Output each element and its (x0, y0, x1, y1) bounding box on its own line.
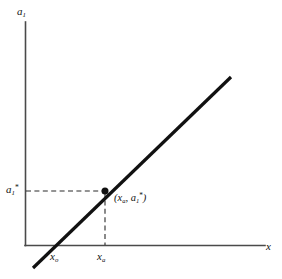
x-tick-xo-subscript: o (55, 256, 58, 263)
x-tick-xa-subscript: a (102, 256, 105, 263)
y-axis-label-base: a (17, 5, 23, 17)
annotation-x-subscript: a (122, 197, 125, 204)
y-axis-label-subscript: 1 (23, 11, 26, 18)
function-line (33, 77, 231, 268)
annotation-a-superscript: * (139, 191, 143, 200)
operating-point-annotation: (xa, a1*) (114, 193, 146, 204)
y-axis-label: a1 (17, 6, 26, 17)
figure-canvas: a1 x a1* xo xa (xa, a1*) (0, 0, 282, 279)
x-tick-label-xo: xo (50, 251, 58, 262)
operating-point-marker (102, 188, 109, 195)
plot-svg (0, 0, 282, 279)
annotation-close-paren: ) (143, 192, 147, 203)
y-tick-label-base: a (6, 183, 12, 195)
y-tick-label-a1-star: a1* (6, 184, 19, 195)
x-tick-label-xa: xa (97, 251, 105, 262)
y-tick-label-superscript: * (15, 183, 19, 192)
x-axis-label: x (266, 241, 271, 252)
